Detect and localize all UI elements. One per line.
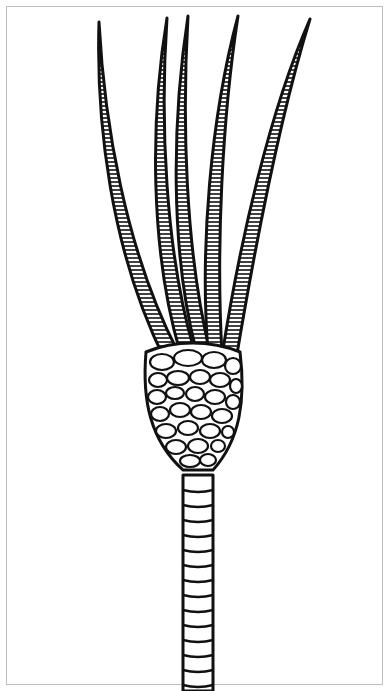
arm-5 xyxy=(222,19,310,360)
crinoid-illustration xyxy=(0,0,392,691)
